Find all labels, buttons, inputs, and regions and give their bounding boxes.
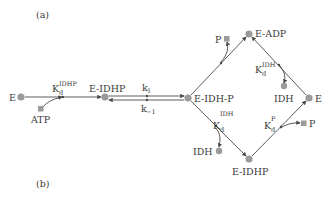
edge-e-idhp-to-e-right bbox=[252, 101, 306, 156]
label-e-left: E bbox=[9, 92, 16, 103]
svg-text:d: d bbox=[271, 126, 275, 134]
node-idh-bottom bbox=[216, 148, 222, 154]
svg-text:P: P bbox=[271, 115, 276, 123]
label-e-right: E bbox=[315, 93, 322, 104]
node-e-idh-p bbox=[184, 94, 191, 101]
svg-text:IDHP: IDHP bbox=[59, 80, 77, 88]
label-e-idh-p: E-IDH-P bbox=[194, 93, 234, 104]
svg-text:1: 1 bbox=[147, 87, 151, 95]
constant-kd-idh-top: K d IDH bbox=[255, 61, 276, 78]
label-e-idhp-left: E-IDHP bbox=[89, 83, 126, 94]
edge-idh-release-top bbox=[280, 66, 285, 83]
node-e-right bbox=[305, 94, 312, 101]
label-p-right: P bbox=[309, 118, 316, 129]
panel-a-label: (a) bbox=[36, 9, 49, 20]
panel-b-label: (b) bbox=[36, 178, 50, 189]
edge-p-release-right bbox=[280, 123, 300, 128]
svg-text:d: d bbox=[220, 126, 224, 134]
node-e-left bbox=[17, 93, 24, 100]
node-atp bbox=[38, 106, 44, 112]
node-p-right bbox=[301, 121, 307, 127]
edge-to-e-adp bbox=[191, 37, 246, 95]
svg-text:d: d bbox=[262, 70, 266, 78]
reaction-diagram: (a) (b) bbox=[0, 0, 331, 199]
edge-atp-binding bbox=[43, 97, 62, 107]
edge-p-release-top bbox=[221, 42, 228, 62]
label-atp: ATP bbox=[30, 114, 51, 125]
label-idh-top: IDH bbox=[274, 93, 294, 104]
constant-k-minus-1: k −1 bbox=[141, 103, 156, 116]
edge-dots bbox=[62, 62, 282, 128]
constant-kd-p: K d P bbox=[264, 115, 276, 134]
node-e-adp bbox=[245, 30, 252, 37]
svg-text:−1: −1 bbox=[146, 108, 156, 116]
label-e-adp: E-ADP bbox=[255, 28, 287, 39]
node-e-idhp-left bbox=[101, 93, 108, 100]
svg-text:IDH: IDH bbox=[262, 61, 276, 69]
node-p-top bbox=[224, 36, 230, 42]
constant-kd-idhp: K d IDHP bbox=[52, 80, 77, 97]
svg-text:IDH: IDH bbox=[220, 110, 234, 118]
node-idh-top bbox=[281, 83, 287, 89]
node-e-idhp-bottom bbox=[245, 155, 252, 162]
label-e-idhp-bottom: E-IDHP bbox=[232, 166, 269, 177]
label-p-top: P bbox=[215, 34, 222, 45]
constant-kd-idh-bottom: K d IDH bbox=[213, 110, 234, 134]
edges bbox=[25, 37, 306, 156]
constant-k1: k 1 bbox=[142, 82, 151, 95]
label-idh-bottom: IDH bbox=[193, 146, 213, 157]
svg-text:d: d bbox=[59, 89, 63, 97]
